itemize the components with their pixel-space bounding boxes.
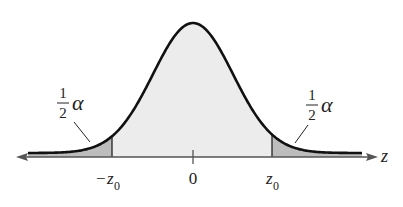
right-tail-leader [295, 125, 308, 143]
minus-sign: − [96, 169, 106, 188]
alpha-symbol: α [321, 92, 333, 117]
normal-curve-diagram: 1 2 α 1 2 α − z 0 0 z 0 z [0, 0, 403, 207]
z-variable: z [265, 169, 273, 188]
subscript: 0 [273, 179, 279, 193]
fraction-numerator: 1 [59, 85, 67, 101]
left-tail-label: 1 2 α [57, 85, 84, 121]
fraction-denominator: 2 [308, 107, 316, 123]
tick-label-zero: 0 [189, 169, 198, 188]
central-region [112, 23, 272, 157]
fraction-numerator: 1 [308, 87, 316, 103]
tick-label-negative-z0: − z 0 [96, 169, 120, 193]
subscript: 0 [114, 179, 120, 193]
axis-label-z: z [380, 146, 388, 166]
right-tail-label: 1 2 α [306, 87, 333, 123]
left-tail-leader [74, 122, 90, 142]
fraction-denominator: 2 [59, 105, 67, 121]
alpha-symbol: α [72, 90, 84, 115]
zero-label: 0 [189, 169, 198, 188]
z-variable: z [106, 169, 114, 188]
tick-label-z0: z 0 [265, 169, 279, 193]
